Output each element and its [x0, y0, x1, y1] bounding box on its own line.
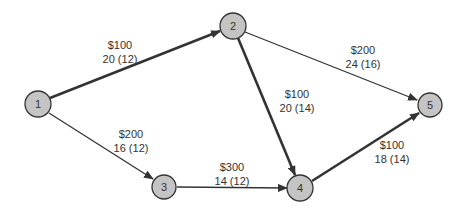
node-3: 3	[152, 175, 176, 199]
node-5: 5	[418, 93, 442, 117]
edge-1-3-time: 16 (12)	[106, 141, 156, 155]
edge-label-1-2: $100 20 (12)	[95, 38, 145, 66]
edge-label-4-5: $100 18 (14)	[367, 138, 417, 166]
node-1: 1	[25, 91, 51, 117]
edge-3-4-cost: $300	[207, 160, 257, 174]
edge-2-5-time: 24 (16)	[338, 57, 388, 71]
node-2-label: 2	[230, 20, 236, 32]
edge-label-2-4: $100 20 (14)	[272, 87, 322, 115]
edge-1-2-time: 20 (12)	[95, 52, 145, 66]
edge-2-5-cost: $200	[338, 43, 388, 57]
node-2: 2	[220, 13, 246, 39]
node-3-label: 3	[161, 181, 167, 193]
node-1-label: 1	[35, 98, 41, 110]
edge-label-1-3: $200 16 (12)	[106, 127, 156, 155]
edge-2-4-time: 20 (14)	[272, 101, 322, 115]
node-5-label: 5	[427, 99, 433, 111]
edge-label-3-4: $300 14 (12)	[207, 160, 257, 188]
edge-4-5-time: 18 (14)	[367, 152, 417, 166]
edge-3-4-time: 14 (12)	[207, 174, 257, 188]
node-4: 4	[287, 175, 313, 201]
edge-4-5-cost: $100	[367, 138, 417, 152]
edge-label-2-5: $200 24 (16)	[338, 43, 388, 71]
edge-2-5	[245, 32, 417, 100]
node-4-label: 4	[297, 182, 303, 194]
edge-1-3-cost: $200	[106, 127, 156, 141]
edge-2-4-cost: $100	[272, 87, 322, 101]
edge-1-2-cost: $100	[95, 38, 145, 52]
